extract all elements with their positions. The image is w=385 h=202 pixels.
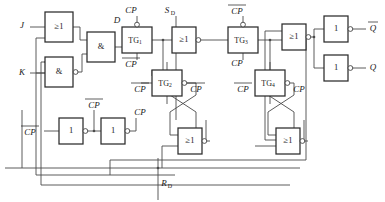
dot-tg1-node: [162, 39, 165, 42]
or-gate-q-bubble: [306, 35, 311, 40]
inverter-q-bubble: [348, 66, 353, 71]
tg2-sub: 2: [169, 82, 172, 88]
net-label-cpbar-tg2-right: CP: [187, 83, 205, 94]
svg-text:CP: CP: [231, 6, 243, 16]
tg1-top-bubble: [135, 22, 140, 27]
input-label-cp-text: CP: [24, 127, 36, 137]
tg3-sub: 3: [245, 39, 248, 45]
wire-or1-to-and2: [73, 27, 87, 40]
net-label-cpbar-tg2-left: CP: [131, 83, 149, 94]
input-label-sd-sub: D: [171, 10, 176, 16]
net-label-cp-tg4-right: CP: [293, 84, 305, 94]
or-gate-reset-r-label: ≥1: [284, 135, 293, 145]
inverter-cp-1-bubble: [83, 129, 88, 134]
or-gate-set[interactable]: ≥1: [172, 27, 201, 53]
transmission-gate-1[interactable]: TG1: [122, 22, 152, 53]
input-label-rd-main: R: [160, 178, 167, 188]
schematic-canvas: ≥1 & & ≥1 ≥1: [0, 0, 385, 202]
transmission-gate-2[interactable]: TG2: [152, 70, 187, 96]
wire-or3-to-inv3: [310, 29, 324, 37]
inverter-cp-1[interactable]: 1: [59, 118, 88, 144]
net-label-cp-tg3: CP: [231, 58, 243, 68]
svg-text:Q: Q: [370, 23, 377, 33]
circuit-diagram: ≥1 & & ≥1 ≥1: [0, 0, 385, 202]
svg-text:CP: CP: [237, 84, 249, 94]
transmission-gate-4[interactable]: TG4: [255, 70, 290, 96]
inverter-qbar-bubble: [348, 27, 353, 32]
inverter-cp-2-bubble: [125, 129, 130, 134]
net-label-cpbar-tg3: CP: [228, 5, 246, 16]
and-gate-d[interactable]: &: [87, 32, 115, 62]
transmission-gate-3[interactable]: TG3: [228, 22, 258, 53]
net-label-cpbar-mid: CP: [85, 99, 103, 110]
wire-or3-to-inv4: [314, 37, 324, 68]
input-label-rd: R D: [160, 178, 173, 189]
or-gate-reset-r[interactable]: ≥1: [276, 128, 305, 154]
svg-text:CP: CP: [190, 84, 202, 94]
or-gate-set-label: ≥1: [180, 34, 189, 44]
or-gate-q-label: ≥1: [290, 31, 299, 41]
or-gate-j-label: ≥1: [55, 21, 64, 31]
tg2-label: TG: [158, 79, 169, 88]
inverter-cp-2[interactable]: 1: [101, 118, 130, 144]
input-label-k: K: [18, 67, 26, 77]
or-gate-set-bubble: [196, 38, 201, 43]
tg4-right-bubble: [285, 81, 290, 86]
net-label-cp-tg1: CP: [125, 5, 137, 15]
inverter-q-label: 1: [334, 62, 338, 72]
wire-and1-to-and2: [77, 54, 87, 72]
and-gate-k-label: &: [56, 66, 63, 76]
and-gate-d-label: &: [98, 41, 105, 51]
input-label-sd-main: S: [165, 5, 170, 15]
input-label-sd: S D: [165, 5, 176, 16]
dot-cpbar-node: [93, 130, 96, 133]
and-gate-k-bubble: [73, 70, 78, 75]
inverter-qbar[interactable]: 1: [324, 16, 353, 42]
dot-out-node: [313, 36, 316, 39]
dot-tg3-node: [269, 39, 272, 42]
tg4-sub: 4: [272, 82, 275, 88]
output-label-q: Q: [370, 62, 377, 72]
wire-or4-in-lower: [162, 146, 178, 168]
or-gate-reset-l[interactable]: ≥1: [178, 128, 207, 154]
dot-rd-node: [157, 167, 160, 170]
net-label-cp-mid: CP: [134, 107, 146, 117]
or-gate-reset-l-bubble: [202, 139, 207, 144]
input-label-j: J: [20, 20, 25, 30]
tg3-label: TG: [234, 36, 245, 45]
wire-cp-tap: [129, 118, 136, 131]
svg-text:CP: CP: [134, 84, 146, 94]
inverter-cp-2-label: 1: [111, 125, 115, 135]
input-label-rd-sub: D: [168, 183, 173, 189]
inverter-q[interactable]: 1: [324, 55, 353, 81]
or-gate-j[interactable]: ≥1: [45, 12, 73, 42]
or-gate-reset-r-bubble: [300, 139, 305, 144]
net-label-cpbar-tg4-left: CP: [234, 83, 252, 94]
tg1-sub: 1: [139, 39, 142, 45]
and-gate-k[interactable]: &: [45, 57, 78, 87]
tg2-right-bubble: [182, 81, 187, 86]
svg-text:CP: CP: [125, 59, 137, 69]
tg3-top-bubble: [241, 22, 246, 27]
tg1-label: TG: [128, 36, 139, 45]
or-gate-q[interactable]: ≥1: [282, 24, 311, 50]
or-gate-reset-l-label: ≥1: [186, 135, 195, 145]
net-label-d: D: [113, 15, 121, 25]
tg4-label: TG: [261, 79, 272, 88]
output-label-qbar: Q: [368, 22, 378, 33]
svg-text:CP: CP: [88, 100, 100, 110]
inverter-qbar-label: 1: [334, 23, 338, 33]
inverter-cp-1-label: 1: [69, 125, 73, 135]
